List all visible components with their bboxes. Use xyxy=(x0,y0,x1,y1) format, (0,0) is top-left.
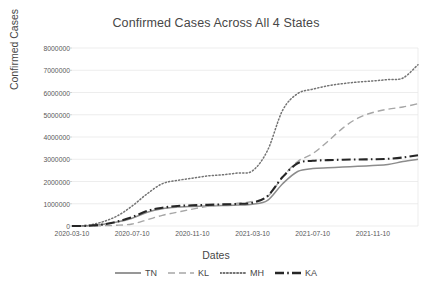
dashdot-line-icon xyxy=(275,268,301,278)
plot-svg xyxy=(0,0,432,306)
series-line-tn xyxy=(72,159,418,226)
legend-entry-tn[interactable]: TN xyxy=(115,268,157,278)
dotted-line-icon xyxy=(220,268,246,278)
solid-line-icon xyxy=(115,268,141,278)
series-line-mh xyxy=(72,65,418,226)
chart-legend: TNKLMHKA xyxy=(0,268,432,278)
plot-area xyxy=(0,0,432,306)
legend-entry-mh[interactable]: MH xyxy=(220,268,264,278)
legend-entry-kl[interactable]: KL xyxy=(168,268,209,278)
legend-entry-ka[interactable]: KA xyxy=(275,268,317,278)
legend-label: KL xyxy=(198,269,209,278)
legend-label: TN xyxy=(145,269,157,278)
legend-label: MH xyxy=(250,269,264,278)
series-line-kl xyxy=(72,104,418,226)
dashed-line-icon xyxy=(168,268,194,278)
legend-label: KA xyxy=(305,269,317,278)
chart-container: Confirmed Cases Across All 4 States Conf… xyxy=(0,0,432,306)
